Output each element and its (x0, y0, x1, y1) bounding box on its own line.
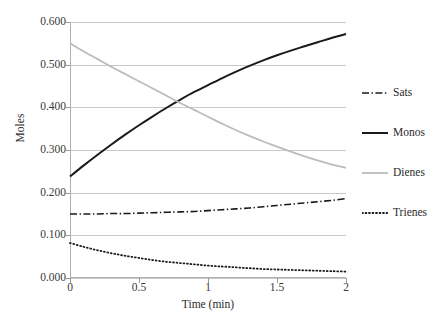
legend-item-dienes[interactable]: Dienes (362, 166, 425, 180)
y-tick-label: 0.500 (40, 59, 66, 71)
y-tick-label: 0.300 (40, 144, 66, 156)
legend-label: Monos (393, 127, 425, 139)
x-tick-label: 0.5 (132, 282, 146, 294)
legend-swatch-dienes-icon (362, 168, 388, 178)
x-tick-mark (70, 278, 71, 283)
x-tick-mark (346, 278, 347, 283)
legend-label: Sats (393, 87, 412, 99)
series-line-trienes (70, 243, 346, 272)
x-tick-mark (139, 278, 140, 283)
series-line-sats (70, 199, 346, 214)
y-tick-label: 0.200 (40, 187, 66, 199)
series-lines (70, 22, 346, 278)
x-tick-label: 2 (343, 282, 349, 294)
series-line-monos (70, 34, 346, 177)
legend-swatch-monos-icon (362, 128, 388, 138)
y-tick-label: 0.400 (40, 101, 66, 113)
y-tick-label: 0.100 (40, 229, 66, 241)
x-tick-label: 1 (205, 282, 211, 294)
x-tick-label: 0 (67, 282, 73, 294)
x-tick-mark (208, 278, 209, 283)
y-tick-label: 0.600 (40, 16, 66, 28)
chart-figure: 0.0000.1000.2000.3000.4000.5000.600 Mole… (0, 0, 448, 320)
y-axis-title: Moles (14, 114, 26, 143)
plot-area (70, 22, 346, 278)
legend-item-trienes[interactable]: Trienes (362, 206, 427, 220)
legend-item-sats[interactable]: Sats (362, 86, 412, 100)
x-tick-mark (277, 278, 278, 283)
legend-label: Dienes (393, 167, 425, 179)
legend-item-monos[interactable]: Monos (362, 126, 425, 140)
legend-label: Trienes (393, 207, 427, 219)
y-tick-label: 0.000 (40, 272, 66, 284)
x-tick-label: 1.5 (270, 282, 284, 294)
legend-swatch-trienes-icon (362, 208, 388, 218)
legend-swatch-sats-icon (362, 88, 388, 98)
x-axis-title: Time (min) (0, 298, 416, 310)
series-line-dienes (70, 43, 346, 168)
